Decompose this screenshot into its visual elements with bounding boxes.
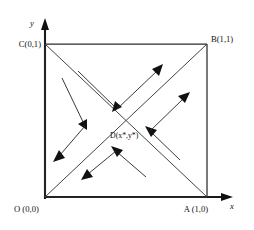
flow-chevron-right-outbound-line	[150, 99, 183, 131]
flow-chevron-right-inbound-line	[151, 132, 180, 160]
flow-chevron-bottom-inbound-line	[117, 152, 146, 177]
flow-chevron-left	[53, 78, 87, 162]
diagram-svg: y x C(0,1) B(1,1) O (0,0) A (1,0) D(x*,y…	[0, 0, 254, 230]
flow-chevron-left-outbound-line	[60, 126, 85, 155]
flow-chevron-top-inbound-arrowhead	[112, 101, 122, 112]
flow-chevron-top	[78, 64, 163, 112]
figure-canvas: y x C(0,1) B(1,1) O (0,0) A (1,0) D(x*,y…	[0, 0, 254, 230]
flow-chevron-right-inbound-arrowhead	[145, 126, 157, 137]
flow-chevron-top-outbound-line	[117, 71, 157, 109]
y-axis-arrowhead	[41, 18, 49, 30]
diagonals-group	[45, 44, 207, 197]
vertex-label-b: B(1,1)	[211, 34, 233, 44]
flow-chevron-bottom-outbound-line	[88, 151, 116, 174]
vertex-label-o: O (0,0)	[14, 204, 39, 214]
flow-chevron-bottom	[81, 146, 146, 180]
interior-point-label-d: D(x*,y*)	[110, 131, 139, 140]
flow-chevron-right-outbound-arrowhead	[178, 92, 190, 103]
vertex-label-a: A (1,0)	[184, 204, 208, 214]
x-axis-label: x	[229, 201, 234, 211]
flow-chevron-top-inbound-line	[78, 71, 116, 108]
vertex-label-c: C(0,1)	[19, 39, 41, 49]
flow-chevron-left-inbound-line	[62, 78, 84, 124]
x-axis-arrowhead	[221, 193, 233, 201]
flow-chevron-bottom-outbound-arrowhead	[81, 169, 93, 180]
y-axis-label: y	[29, 18, 34, 28]
flow-chevron-right	[145, 92, 190, 160]
